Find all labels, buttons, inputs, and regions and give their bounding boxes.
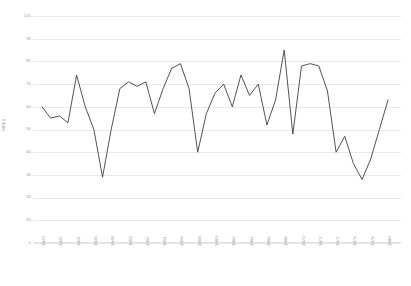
x-axis-tick-label: 1878	[371, 236, 375, 246]
y-axis-tick-label: 30	[5, 173, 31, 177]
y-axis-tick-label: 100	[5, 14, 31, 18]
x-axis-tick-label: 1860	[215, 236, 219, 246]
plot-area	[33, 16, 401, 243]
x-axis-tick-label: 1844	[77, 236, 81, 246]
x-axis-tick-label: 1846	[94, 236, 98, 246]
y-axis-tick-label: 50	[5, 127, 31, 131]
y-axis-tick-label: 20	[5, 195, 31, 199]
x-axis-tick-label: 1848	[111, 236, 115, 246]
x-axis-tick-label: 1876	[353, 236, 357, 246]
y-axis-tick-label: 10	[5, 218, 31, 222]
x-axis-tick-label: 1870	[302, 236, 306, 246]
y-axis-tick-label: 60	[5, 105, 31, 109]
x-axis-tick-label: 1854	[163, 236, 167, 246]
x-axis-tick-label: 1850	[129, 236, 133, 246]
x-axis-tick-label: 1866	[267, 236, 271, 246]
y-axis-tick-label: 80	[5, 59, 31, 63]
y-axis-tick-label: 90	[5, 37, 31, 41]
y-axis-tick-label: 40	[5, 150, 31, 154]
x-axis-tick-label: 1862	[232, 236, 236, 246]
x-axis-tick-label: 1874	[336, 236, 340, 246]
x-axis-tick-label: 1856	[180, 236, 184, 246]
line-chart: INDEX 0102030405060708090100 18401842184…	[0, 0, 411, 286]
x-axis-tick-labels: 1840184218441846184818501852185418561858…	[33, 243, 401, 286]
y-axis-tick-labels: 0102030405060708090100	[0, 16, 31, 243]
x-axis-tick-label: 1840	[42, 236, 46, 246]
y-axis-tick-label: 0	[5, 241, 31, 245]
x-axis-tick-label: 1880	[388, 236, 392, 246]
x-axis-tick-label: 1864	[250, 236, 254, 246]
y-axis-tick-label: 70	[5, 82, 31, 86]
x-axis-tick-label: 1858	[198, 236, 202, 246]
x-axis-tick-label: 1842	[59, 236, 63, 246]
series-line-index	[33, 16, 401, 243]
x-axis-tick-label: 1852	[146, 236, 150, 246]
x-axis-tick-label: 1868	[284, 236, 288, 246]
x-axis-tick-label: 1872	[319, 236, 323, 246]
